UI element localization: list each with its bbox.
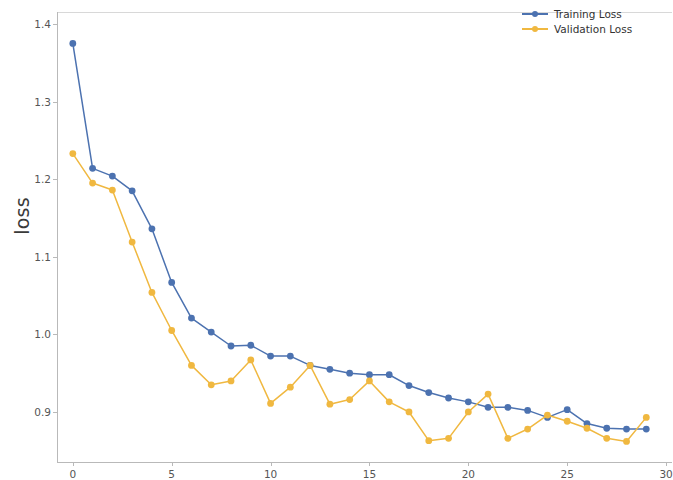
data-point: [366, 378, 373, 385]
data-point: [129, 187, 136, 194]
data-point: [425, 437, 432, 444]
data-point: [326, 366, 333, 373]
x-tick-label: 10: [264, 468, 277, 480]
data-point: [524, 426, 531, 433]
data-point: [425, 389, 432, 396]
x-tick-mark: [468, 462, 469, 466]
data-point: [603, 435, 610, 442]
data-point: [603, 425, 610, 432]
y-tick-label: 1.4: [34, 18, 51, 30]
data-point: [623, 438, 630, 445]
data-point: [228, 343, 235, 350]
x-tick-label: 20: [462, 468, 475, 480]
legend-item[interactable]: Training Loss: [522, 8, 632, 20]
data-point: [346, 396, 353, 403]
data-point: [465, 409, 472, 416]
y-tick-label: 1.3: [34, 96, 51, 108]
x-tick-mark: [567, 462, 568, 466]
data-point: [287, 384, 294, 391]
data-point: [326, 401, 333, 408]
data-point: [69, 40, 76, 47]
x-tick-mark: [73, 462, 74, 466]
data-point: [366, 371, 373, 378]
legend-label: Validation Loss: [554, 23, 632, 35]
x-tick-label: 30: [659, 468, 672, 480]
data-point: [406, 382, 413, 389]
data-point: [584, 425, 591, 432]
data-point: [643, 426, 650, 433]
plot-area: 1.41.31.21.11.00.9 051015202530: [57, 12, 672, 462]
data-point: [445, 395, 452, 402]
data-point: [188, 362, 195, 369]
data-point: [109, 173, 116, 180]
x-tick-label: 15: [363, 468, 376, 480]
series-container: [57, 12, 672, 462]
data-point: [208, 329, 215, 336]
x-tick-label: 0: [69, 468, 76, 480]
data-point: [386, 371, 393, 378]
data-point: [445, 435, 452, 442]
data-point: [406, 409, 413, 416]
data-point: [109, 187, 116, 194]
series-validation-loss: [69, 150, 649, 445]
series-line: [73, 43, 646, 429]
series-line: [73, 154, 646, 442]
data-point: [643, 414, 650, 421]
data-point: [129, 239, 136, 246]
data-point: [89, 165, 96, 172]
y-tick-label: 1.1: [34, 251, 51, 263]
legend-label: Training Loss: [554, 8, 622, 20]
data-point: [69, 150, 76, 157]
data-point: [307, 362, 314, 369]
data-point: [564, 406, 571, 413]
legend-marker-icon: [522, 24, 548, 34]
data-point: [247, 342, 254, 349]
data-point: [149, 225, 156, 232]
data-point: [346, 370, 353, 377]
data-point: [485, 404, 492, 411]
data-point: [168, 279, 175, 286]
series-training-loss: [69, 40, 649, 432]
x-tick-mark: [369, 462, 370, 466]
data-point: [386, 398, 393, 405]
axis-spine-bottom: [57, 462, 672, 463]
data-point: [247, 357, 254, 364]
x-tick-mark: [172, 462, 173, 466]
data-point: [168, 327, 175, 334]
data-point: [465, 398, 472, 405]
legend-marker-icon: [522, 9, 548, 19]
x-tick-mark: [271, 462, 272, 466]
x-tick-mark: [666, 462, 667, 466]
data-point: [504, 435, 511, 442]
data-point: [89, 180, 96, 187]
data-point: [623, 426, 630, 433]
chart-legend: Training LossValidation Loss: [518, 6, 636, 37]
legend-item[interactable]: Validation Loss: [522, 23, 632, 35]
y-tick-label: 1.2: [34, 173, 51, 185]
data-point: [188, 315, 195, 322]
data-point: [485, 391, 492, 398]
data-point: [267, 353, 274, 360]
data-point: [544, 412, 551, 419]
x-tick-label: 25: [561, 468, 574, 480]
data-point: [504, 404, 511, 411]
y-tick-label: 1.0: [34, 328, 51, 340]
data-point: [208, 381, 215, 388]
y-axis-label: loss: [11, 176, 33, 256]
data-point: [149, 289, 156, 296]
y-tick-label: 0.9: [34, 406, 51, 418]
data-point: [228, 378, 235, 385]
data-point: [287, 353, 294, 360]
data-point: [564, 418, 571, 425]
data-point: [267, 400, 274, 407]
data-point: [524, 407, 531, 414]
x-tick-label: 5: [168, 468, 175, 480]
